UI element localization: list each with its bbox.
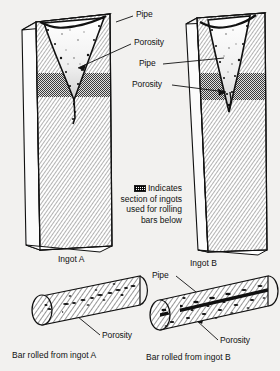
legend-note: Indicates section of ingots used for rol… [104,183,182,225]
label-ingot-b-pipe: Pipe [139,58,156,68]
label-bar-b-pipe: Pipe [152,270,169,280]
label-ingot-a-pipe: Pipe [136,9,153,19]
leader-bar-b-porosity [196,320,218,340]
legend-line-2: section of ingots [104,194,182,205]
caption-bar-a: Bar rolled from ingot A [12,350,96,360]
caption-bar-b: Bar rolled from ingot B [146,352,231,362]
bar-b [150,276,278,330]
legend-line-1: Indicates [104,183,182,194]
label-ingot-b-porosity: Porosity [132,79,162,89]
crosshatch-swatch-icon [134,185,146,192]
label-bar-b-porosity: Porosity [220,335,250,345]
bar-a [32,276,147,325]
leader-ingot-a-pipe [116,16,133,22]
caption-ingot-a: Ingot A [58,254,84,264]
legend-line-3: used for rolling [104,204,182,215]
legend-line-4: bars below [104,215,182,226]
leader-bar-b-pipe [176,276,196,292]
ingot-b-body [186,13,272,255]
figure-canvas: Pipe Porosity Pipe Porosity Indicates se… [0,0,280,371]
caption-ingot-b: Ingot B [190,258,217,268]
label-bar-a-porosity: Porosity [102,330,132,340]
label-ingot-a-porosity: Porosity [134,37,164,47]
